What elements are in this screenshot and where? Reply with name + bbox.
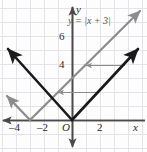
equation-label: y = |x + 3|: [68, 16, 111, 26]
origin-label: O: [62, 122, 70, 133]
x-tick-label-minus-2: –2: [37, 122, 48, 133]
x-tick-label-minus-4: –4: [9, 122, 20, 133]
grid-horizontal-lines: [0, 9, 147, 149]
y-tick-label-4: 4: [59, 59, 65, 70]
y-tick-label-6: 6: [59, 31, 65, 42]
x-tick-label-2: 2: [97, 122, 103, 133]
x-axis-label: x: [133, 122, 138, 133]
graph-figure: y = |x + 3| y x O –4 –2 2 4 6: [0, 0, 147, 152]
y-axis-label: y: [76, 4, 81, 15]
